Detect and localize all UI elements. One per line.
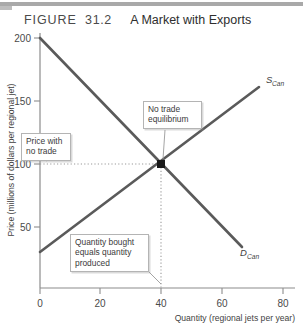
figure-container: FIGURE 31.2 A Market with Exports — [0, 0, 303, 333]
x-tick-label-0: 0 — [37, 298, 43, 309]
y-tick-label-50: 50 — [20, 222, 32, 233]
x-axis-ticks — [40, 288, 283, 294]
demand-curve-label: D Can — [240, 247, 259, 260]
x-tick-label-40: 40 — [155, 298, 167, 309]
x-tick-label-80: 80 — [277, 298, 289, 309]
y-tick-label-150: 150 — [14, 96, 31, 107]
leader-line-no-trade-equilibrium — [163, 130, 165, 159]
demand-curve-label-sub: Can — [247, 253, 259, 260]
chart-plot-area: 200 150 100 50 0 20 40 60 80 Price (mill… — [0, 0, 303, 333]
x-axis-title: Quantity (regional jets per year) — [175, 313, 296, 323]
equilibrium-marker — [157, 160, 165, 168]
x-tick-label-60: 60 — [216, 298, 228, 309]
page-footer-strip — [0, 328, 303, 333]
demand-curve-label-main: D — [240, 247, 247, 258]
x-tick-label-20: 20 — [94, 298, 106, 309]
supply-curve-label-sub: Can — [272, 80, 284, 87]
supply-curve-label: S Can — [266, 74, 284, 87]
y-tick-label-200: 200 — [14, 33, 31, 44]
annotation-no-trade-equilibrium: No trade equilibrium — [143, 101, 202, 129]
annotation-quantity-bought-equals-produced: Quantity bought equals quantity produced — [70, 234, 149, 272]
leader-line-quantity-bought — [149, 272, 161, 284]
annotation-price-with-no-trade: Price with no trade — [21, 133, 71, 161]
y-axis-title: Price (millions of dollars per regional … — [6, 83, 16, 236]
